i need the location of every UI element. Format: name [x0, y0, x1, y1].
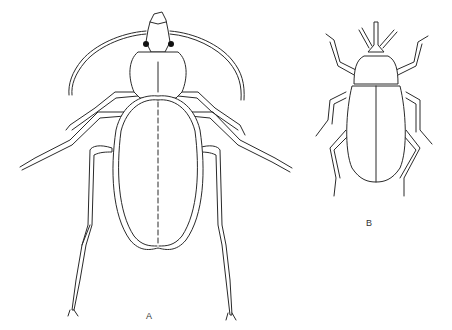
beetle-b-pronotum [354, 56, 398, 84]
beetle-illustration [0, 0, 452, 330]
beetle-b-left-antenna [362, 28, 372, 46]
beetle-a-head [146, 12, 170, 52]
beetle-a-mid-left-leg [20, 112, 125, 167]
beetle-a [20, 12, 292, 320]
beetle-b-front-left-leg [326, 34, 356, 70]
beetle-b-rostrum [368, 22, 384, 52]
beetle-a-mid-right-leg [190, 112, 292, 168]
beetle-b-mid-left-leg [316, 92, 346, 136]
beetle-b-front-right-leg [396, 36, 428, 70]
panel-label-b: B [366, 218, 372, 228]
beetle-a-left-eye [143, 41, 149, 47]
panel-label-a: A [146, 311, 152, 321]
beetle-b-hind-right-leg [404, 130, 420, 196]
beetle-b [316, 22, 432, 196]
beetle-a-right-eye [168, 41, 174, 47]
beetle-a-hind-left-leg [72, 146, 112, 310]
